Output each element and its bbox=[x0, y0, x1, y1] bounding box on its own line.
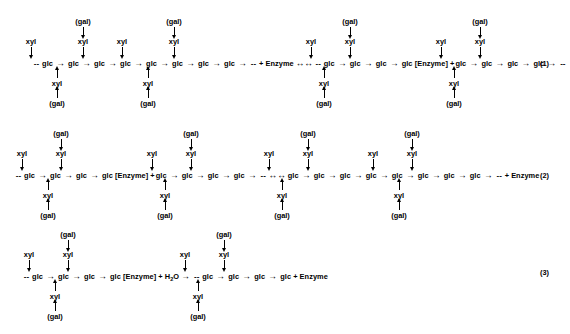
branch-arrow-up-icon bbox=[135, 88, 161, 99]
substituent-branch-below: xyl(gal) bbox=[135, 68, 161, 108]
glc-residue: glc bbox=[287, 171, 300, 180]
branch-arrow-down-icon bbox=[337, 26, 363, 37]
linkage-arrow-icon: → bbox=[352, 171, 365, 180]
glc-residue: glc bbox=[506, 59, 519, 68]
gal-label: (gal) bbox=[441, 99, 467, 108]
enzyme-term: + Enzyme bbox=[292, 272, 329, 281]
branch-arrow-up-icon bbox=[269, 200, 295, 211]
linkage-arrow-icon: → bbox=[168, 171, 181, 180]
branch-arrow-up-icon bbox=[44, 68, 70, 79]
gal-label: (gal) bbox=[269, 211, 295, 220]
glc-residue: glc bbox=[233, 171, 246, 180]
substituent-branch-below: xyl(gal) bbox=[441, 68, 467, 108]
substituent-branch-below: xyl(gal) bbox=[386, 180, 412, 220]
branch-arrow-up-icon bbox=[269, 180, 295, 191]
branch-arrow-down-icon bbox=[55, 239, 81, 250]
glc-residue: glc bbox=[469, 171, 482, 180]
glc-residue: glc bbox=[279, 272, 292, 281]
substituent-branch-below: xyl(gal) bbox=[35, 180, 61, 220]
branch-arrow-up-icon bbox=[185, 281, 211, 292]
branch-arrow-up-icon bbox=[42, 281, 68, 292]
branch-arrow-up-icon bbox=[386, 180, 412, 191]
substituent-branch-above: xyl bbox=[16, 250, 42, 270]
glc-residue: glc bbox=[207, 171, 220, 180]
linkage-arrow-icon: → bbox=[456, 171, 469, 180]
branch-arrow-down-icon bbox=[16, 259, 42, 270]
glc-residue: glc bbox=[197, 59, 210, 68]
linkage-arrow-icon: → bbox=[88, 171, 101, 180]
branch-arrow-down-icon bbox=[9, 158, 35, 169]
chain-continuation-dash: -- bbox=[22, 272, 31, 281]
branch-arrow-up-icon bbox=[152, 180, 178, 191]
linkage-arrow-icon: → bbox=[106, 59, 119, 68]
gal-label: (gal) bbox=[399, 129, 425, 138]
xyl-label: xyl bbox=[428, 37, 454, 46]
glc-residue: glc bbox=[375, 59, 388, 68]
branch-arrow-up-icon bbox=[135, 68, 161, 79]
xyl-label: xyl bbox=[109, 37, 135, 46]
glc-residue: glc bbox=[57, 272, 70, 281]
substituent-branch-below: xyl(gal) bbox=[185, 281, 211, 321]
substituent-branch-above: (gal)xyl bbox=[467, 17, 493, 57]
substituent-branch-above: (gal)xyl bbox=[70, 17, 96, 57]
branch-arrow-down-icon bbox=[399, 158, 425, 169]
enzyme-water-term: glc [Enzyme] + H2O bbox=[109, 272, 179, 281]
linkage-arrow-icon: → bbox=[519, 59, 532, 68]
linkage-arrow-icon: → bbox=[158, 59, 171, 68]
glc-residue: glc bbox=[83, 272, 96, 281]
branch-arrow-down-icon bbox=[178, 158, 204, 169]
equilibrium-arrow-icon: ↔↔ bbox=[268, 171, 287, 180]
xyl-label: xyl bbox=[256, 149, 282, 158]
branch-arrow-down-icon bbox=[48, 138, 74, 149]
glc-residue: glc bbox=[49, 171, 62, 180]
linkage-arrow-icon: → bbox=[404, 171, 417, 180]
glc-residue: glc bbox=[313, 171, 326, 180]
substituent-branch-above: (gal)xyl bbox=[399, 129, 425, 169]
substituent-branch-below: xyl(gal) bbox=[269, 180, 295, 220]
chain-continuation-dash: -- bbox=[249, 59, 258, 68]
linkage-arrow-icon: → bbox=[482, 171, 495, 180]
linkage-arrow-icon: → bbox=[80, 59, 93, 68]
xyl-label: xyl bbox=[18, 37, 44, 46]
branch-arrow-down-icon bbox=[18, 46, 44, 57]
glucan-backbone-chain: --glc→glc→glc→glc→glc→glc→glc→glc→--+ En… bbox=[32, 59, 567, 68]
glc-residue: glc bbox=[171, 59, 184, 68]
glc-residue: glc bbox=[349, 59, 362, 68]
gal-label: (gal) bbox=[135, 99, 161, 108]
substituent-branch-above: (gal)xyl bbox=[178, 129, 204, 169]
reaction-scheme-figure: --glc→glc→glc→glc→glc→glc→glc→glc→--+ En… bbox=[0, 0, 570, 334]
branch-arrow-down-icon bbox=[428, 46, 454, 57]
substituent-branch-above: (gal)xyl bbox=[161, 17, 187, 57]
branch-arrow-down-icon bbox=[70, 26, 96, 37]
branch-arrow-down-icon bbox=[172, 259, 198, 270]
xyl-label: xyl bbox=[9, 149, 35, 158]
substituent-branch-above: xyl bbox=[360, 149, 386, 169]
linkage-arrow-icon: → bbox=[362, 59, 375, 68]
substituent-branch-above: xyl bbox=[256, 149, 282, 169]
branch-arrow-up-icon bbox=[152, 200, 178, 211]
gal-label: (gal) bbox=[295, 129, 321, 138]
substituent-branch-above: (gal)xyl bbox=[211, 230, 237, 270]
chain-continuation-dash: -- bbox=[495, 171, 504, 180]
branch-arrow-up-icon bbox=[44, 88, 70, 99]
equation-number: (1) bbox=[540, 59, 549, 68]
gal-label: (gal) bbox=[467, 17, 493, 26]
gal-label: (gal) bbox=[152, 211, 178, 220]
substituent-branch-above: xyl bbox=[109, 37, 135, 57]
substituent-branch-above: xyl bbox=[172, 250, 198, 270]
branch-arrow-down-icon bbox=[298, 46, 324, 57]
glc-residue: glc bbox=[417, 171, 430, 180]
gal-label: (gal) bbox=[48, 129, 74, 138]
substituent-branch-above: xyl bbox=[428, 37, 454, 57]
glc-residue: glc bbox=[75, 171, 88, 180]
gal-label: (gal) bbox=[178, 129, 204, 138]
linkage-arrow-icon: → bbox=[236, 59, 249, 68]
glc-residue: glc bbox=[119, 59, 132, 68]
branch-arrow-up-icon bbox=[35, 180, 61, 191]
xyl-label: xyl bbox=[172, 250, 198, 259]
glc-residue: glc bbox=[480, 59, 493, 68]
equation-number: (3) bbox=[540, 268, 549, 277]
branch-arrow-down-icon bbox=[211, 239, 237, 250]
branch-arrow-up-icon bbox=[185, 301, 211, 312]
glc-residue: glc bbox=[227, 272, 240, 281]
